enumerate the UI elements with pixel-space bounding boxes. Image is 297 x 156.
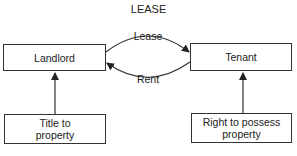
- landlord-node: Landlord: [3, 44, 106, 71]
- diagram-title: LEASE: [0, 3, 297, 15]
- rent-label: Rent: [123, 73, 173, 85]
- title-to-property-node: Title to property: [4, 114, 106, 144]
- right-to-possess-node: Right to possess property: [191, 113, 292, 143]
- tenant-node: Tenant: [190, 43, 292, 71]
- lease-label: Lease: [123, 30, 173, 42]
- right-to-possess-label: Right to possess property: [196, 116, 287, 140]
